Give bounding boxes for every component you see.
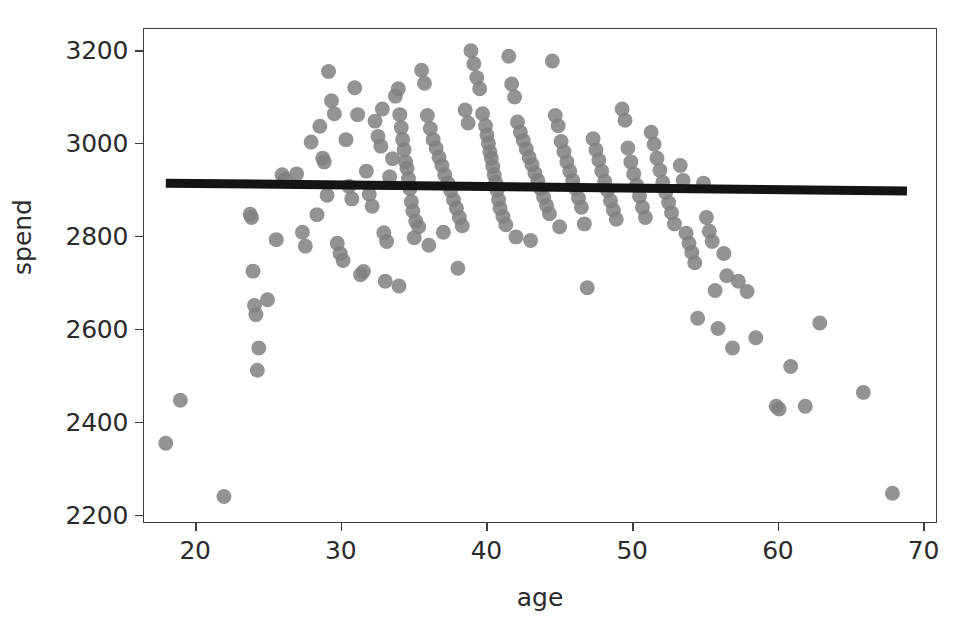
data-point	[344, 191, 359, 206]
data-point	[856, 385, 871, 400]
y-tick-label-3000: 3000	[66, 128, 128, 157]
data-point	[417, 76, 432, 91]
data-point	[260, 292, 275, 307]
data-point	[463, 43, 478, 58]
data-point	[336, 253, 351, 268]
data-point	[638, 210, 653, 225]
data-point	[373, 139, 388, 154]
x-tick-50	[632, 522, 634, 531]
data-point	[466, 56, 481, 71]
data-point	[509, 229, 524, 244]
data-point	[740, 284, 755, 299]
y-tick-label-3200: 3200	[66, 35, 128, 64]
data-point	[455, 218, 470, 233]
data-point	[647, 137, 662, 152]
data-point	[450, 261, 465, 276]
y-tick-2200	[135, 515, 144, 517]
data-point	[690, 311, 705, 326]
data-layer	[144, 29, 936, 522]
regression-line	[166, 183, 907, 191]
data-point	[711, 321, 726, 336]
data-point	[618, 113, 633, 128]
data-point	[309, 207, 324, 222]
data-point	[378, 274, 393, 289]
data-point	[545, 53, 560, 68]
data-point	[716, 246, 731, 261]
x-tick-label-40: 40	[471, 536, 502, 565]
scatter-points	[158, 43, 900, 504]
data-point	[298, 239, 313, 254]
y-tick-3000	[135, 143, 144, 145]
data-point	[620, 140, 635, 155]
scatter-plot-figure: 220024002600280030003200 203040506070 ag…	[0, 0, 979, 634]
data-point	[577, 216, 592, 231]
data-point	[523, 233, 538, 248]
data-point	[798, 399, 813, 414]
data-point	[375, 102, 390, 117]
y-tick-label-2800: 2800	[66, 221, 128, 250]
data-point	[295, 225, 310, 240]
data-point	[158, 436, 173, 451]
data-point	[885, 486, 900, 501]
data-point	[501, 49, 516, 64]
data-point	[812, 315, 827, 330]
x-axis-label: age	[143, 583, 937, 612]
data-point	[609, 212, 624, 227]
data-point	[248, 307, 263, 322]
data-point	[414, 63, 429, 78]
data-point	[420, 108, 435, 123]
data-point	[250, 363, 265, 378]
y-tick-2400	[135, 422, 144, 424]
data-point	[339, 132, 354, 147]
y-axis-label: spend	[8, 199, 37, 275]
data-point	[436, 225, 451, 240]
y-tick-3200	[135, 50, 144, 52]
data-point	[304, 134, 319, 149]
y-tick-2800	[135, 236, 144, 238]
data-point	[251, 340, 266, 355]
x-tick-label-20: 20	[179, 536, 210, 565]
data-point	[379, 234, 394, 249]
data-point	[498, 217, 513, 232]
data-point	[356, 264, 371, 279]
data-point	[783, 359, 798, 374]
data-point	[461, 115, 476, 130]
y-tick-label-2200: 2200	[66, 500, 128, 529]
data-point	[705, 234, 720, 249]
data-point	[350, 107, 365, 122]
y-tick-2600	[135, 329, 144, 331]
x-tick-70	[923, 522, 925, 531]
y-tick-label-2400: 2400	[66, 407, 128, 436]
data-point	[574, 200, 589, 215]
x-tick-label-50: 50	[616, 536, 647, 565]
data-point	[407, 230, 422, 245]
data-point	[324, 93, 339, 108]
data-point	[421, 238, 436, 253]
data-point	[216, 489, 231, 504]
data-point	[552, 219, 567, 234]
x-tick-40	[486, 522, 488, 531]
data-point	[173, 393, 188, 408]
data-point	[472, 81, 487, 96]
x-tick-label-70: 70	[908, 536, 939, 565]
data-point	[392, 278, 407, 293]
data-point	[365, 199, 380, 214]
data-point	[317, 154, 332, 169]
data-point	[392, 107, 407, 122]
data-point	[708, 283, 723, 298]
scatter-canvas	[144, 29, 936, 522]
data-point	[320, 188, 335, 203]
plot-area: 220024002600280030003200 203040506070	[143, 28, 937, 523]
data-point	[321, 64, 336, 79]
data-point	[699, 210, 714, 225]
data-point	[327, 106, 342, 121]
data-point	[551, 118, 566, 133]
data-point	[673, 158, 688, 173]
data-point	[507, 90, 522, 105]
data-point	[312, 119, 327, 134]
x-tick-30	[341, 522, 343, 531]
data-point	[246, 264, 261, 279]
x-tick-20	[195, 522, 197, 531]
data-point	[748, 330, 763, 345]
y-tick-label-2600: 2600	[66, 314, 128, 343]
